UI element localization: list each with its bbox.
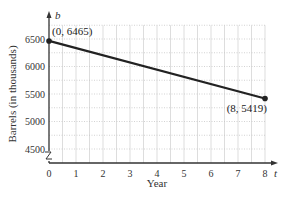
y-variable-label: b [55, 9, 61, 21]
point-label-end: (8, 5419) [227, 102, 268, 115]
x-tick-label: 1 [74, 168, 79, 179]
data-point [262, 96, 268, 102]
y-tick-label: 4500 [25, 144, 45, 155]
line-chart: b t 45005000550060006500 012345678 Year … [0, 0, 286, 199]
y-axis-title: Barrels (in thousands) [6, 45, 19, 142]
y-tick-label: 6000 [25, 61, 45, 72]
x-tick-label: 0 [47, 168, 52, 179]
x-axis-title: Year [147, 177, 168, 189]
y-tick-label: 5500 [25, 89, 45, 100]
y-tick-label: 5000 [25, 116, 45, 127]
x-tick-label: 7 [236, 168, 241, 179]
point-label-start: (0, 6465) [52, 25, 93, 38]
x-tick-label: 5 [182, 168, 187, 179]
data-point [46, 38, 52, 44]
y-tick-labels: 45005000550060006500 [25, 34, 45, 155]
x-tick-label: 3 [128, 168, 133, 179]
x-tick-label: 2 [101, 168, 106, 179]
x-tick-label: 8 [263, 168, 268, 179]
x-variable-label: t [274, 167, 278, 179]
grid [49, 25, 265, 163]
x-axis-arrow-icon [271, 161, 278, 166]
x-tick-label: 6 [209, 168, 214, 179]
y-tick-label: 6500 [25, 34, 45, 45]
y-axis-arrow-icon [47, 11, 52, 18]
